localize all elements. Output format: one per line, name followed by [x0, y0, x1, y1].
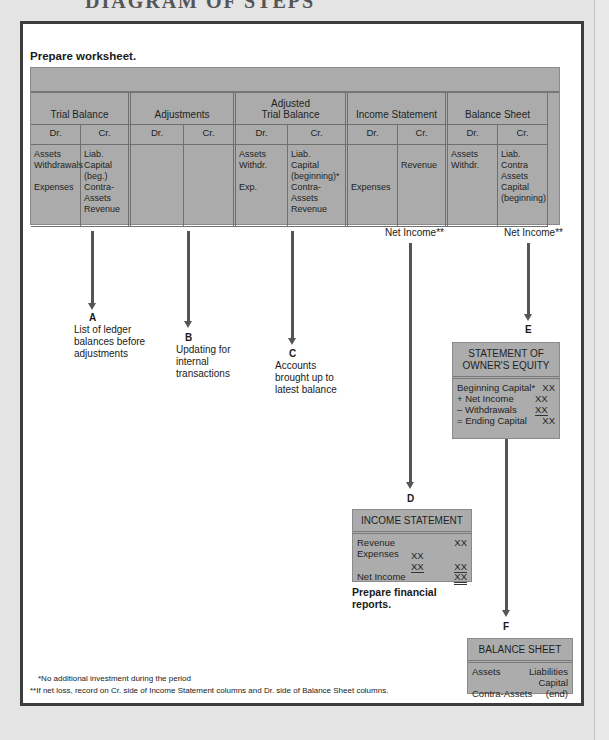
col-is-dr: Dr. — [348, 125, 398, 145]
arrow-down-icon — [505, 439, 508, 611]
is-label: Revenue — [357, 537, 395, 548]
col-bs-dr: Dr. — [448, 125, 498, 145]
balance-sheet-title: BALANCE SHEET — [468, 639, 572, 663]
cell-is-cr: Revenue — [398, 145, 448, 227]
footnote-1: *No additional investment during the per… — [38, 674, 191, 683]
arrow-down-icon — [187, 231, 190, 322]
step-c-description: Accounts brought up to latest balance — [275, 360, 337, 396]
oe-value: XX — [542, 382, 555, 393]
income-statement-box: INCOME STATEMENT RevenueXX ExpensesXX XX… — [352, 509, 472, 582]
bs-assets: Assets — [472, 666, 501, 677]
balance-sheet-body: Assets Liabilities Capital Contra-Assets… — [468, 663, 572, 697]
bs-end: (end) — [546, 688, 568, 699]
group-adjusted-trial-balance: Adjusted Trial Balance — [236, 93, 348, 125]
step-c-letter: C — [289, 348, 296, 359]
step-d-letter: D — [407, 493, 414, 504]
col-bs-cr: Cr. — [498, 125, 548, 145]
col-is-cr: Cr. — [398, 125, 448, 145]
net-income-label-is: Net Income** — [385, 227, 444, 238]
cell-adj-dr — [131, 145, 184, 227]
cell-adj-cr — [184, 145, 236, 227]
arrow-down-icon — [409, 243, 412, 483]
owners-equity-body: Beginning Capital*XX + Net IncomeXX – Wi… — [453, 379, 559, 429]
cell-bs-dr: Assets Withdr. — [448, 145, 498, 227]
worksheet: Trial Balance Adjustments Adjusted Trial… — [30, 67, 560, 225]
arrow-down-icon — [527, 243, 530, 315]
col-tb-cr: Cr. — [81, 125, 131, 145]
step-b-description: Updating for internal transactions — [176, 344, 230, 380]
income-statement-title: INCOME STATEMENT — [353, 510, 471, 534]
is-value: XX — [454, 537, 467, 548]
group-trial-balance: Trial Balance — [31, 93, 131, 125]
cell-tb-dr: Assets Withdrawals Expenses — [31, 145, 81, 227]
cell-atb-dr: Assets Withdr. Exp. — [236, 145, 288, 227]
col-tb-dr: Dr. — [31, 125, 81, 145]
footnote-2: **If net loss, record on Cr. side of Inc… — [30, 686, 388, 695]
cell-is-dr: Expenses — [348, 145, 398, 227]
income-statement-body: RevenueXX ExpensesXX XXXX Net IncomeXX — [353, 534, 471, 584]
bs-liabilities: Liabilities — [529, 666, 568, 677]
oe-label: + Net Income — [457, 393, 514, 404]
cell-atb-cr: Liab. Capital (beginning)* Contra- Asset… — [288, 145, 348, 227]
owners-equity-title: STATEMENT OF OWNER'S EQUITY — [453, 343, 559, 379]
step-b-letter: B — [185, 332, 192, 343]
is-label: Net Income — [357, 571, 406, 582]
step-e-letter: E — [525, 324, 532, 335]
prepare-reports-label: Prepare financial reports. — [352, 586, 437, 610]
group-income-statement: Income Statement — [348, 93, 448, 125]
step-f-letter: F — [503, 621, 509, 632]
diagram-panel: Prepare worksheet. Trial Balance Adjustm… — [20, 21, 584, 706]
page-header: DIAGRAM OF STEPS — [85, 0, 315, 8]
section-title: Prepare worksheet. — [30, 50, 136, 62]
statement-of-owners-equity: STATEMENT OF OWNER'S EQUITY Beginning Ca… — [452, 342, 560, 439]
oe-label: Beginning Capital* — [457, 382, 535, 393]
oe-value: XX — [535, 393, 548, 404]
page-edge — [594, 0, 609, 740]
arrow-down-icon — [291, 231, 294, 339]
col-atb-dr: Dr. — [236, 125, 288, 145]
col-adj-dr: Dr. — [131, 125, 184, 145]
bs-contra-assets: Contra-Assets — [472, 688, 532, 699]
is-value: XX — [454, 571, 467, 585]
group-adjustments: Adjustments — [131, 93, 236, 125]
oe-value: XX — [542, 415, 555, 426]
balance-sheet-box: BALANCE SHEET Assets Liabilities Capital… — [467, 638, 573, 694]
oe-label: = Ending Capital — [457, 415, 527, 426]
step-a-description: List of ledger balances before adjustmen… — [74, 324, 145, 360]
group-balance-sheet: Balance Sheet — [448, 93, 548, 125]
cell-tb-cr: Liab. Capital (beg.) Contra- Assets Reve… — [81, 145, 131, 227]
is-label: Expenses — [357, 548, 399, 559]
oe-label: – Withdrawals — [457, 404, 517, 415]
arrow-down-icon — [91, 231, 94, 304]
col-adj-cr: Cr. — [184, 125, 236, 145]
col-atb-cr: Cr. — [288, 125, 348, 145]
cell-bs-cr: Liab. Contra Assets Capital (beginning) — [498, 145, 548, 227]
net-income-label-bs: Net Income** — [504, 227, 563, 238]
worksheet-grid: Trial Balance Adjustments Adjusted Trial… — [31, 91, 559, 225]
step-a-letter: A — [89, 312, 96, 323]
bs-capital: Capital — [538, 677, 568, 688]
